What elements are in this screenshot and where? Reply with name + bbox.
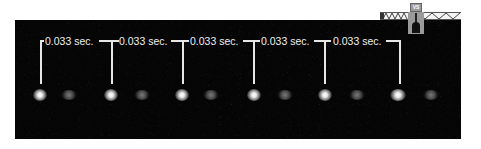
bright-spot bbox=[390, 89, 406, 101]
dim-spot bbox=[61, 90, 77, 100]
time-marker-line bbox=[111, 40, 113, 84]
bright-spot bbox=[247, 89, 261, 101]
interval-bracket bbox=[99, 40, 119, 42]
bright-spot bbox=[318, 89, 332, 101]
dim-spot bbox=[277, 90, 293, 100]
interval-label: 0.033 sec. bbox=[190, 35, 238, 47]
time-marker-line bbox=[40, 40, 42, 84]
interval-bracket bbox=[243, 40, 260, 42]
bright-spot bbox=[33, 89, 47, 101]
bright-spot bbox=[104, 89, 118, 101]
interval-bracket bbox=[171, 40, 189, 42]
detector-body bbox=[412, 22, 420, 33]
vs-label-box: VS bbox=[410, 3, 422, 12]
interval-bracket bbox=[40, 40, 44, 42]
time-marker-line bbox=[399, 40, 401, 84]
fluorescence-image-panel: 0.033 sec. 0.033 sec. 0.033 sec. 0.033 s… bbox=[15, 20, 461, 139]
interval-bracket bbox=[314, 40, 331, 42]
dim-spot bbox=[423, 90, 439, 100]
interval-label: 0.033 sec. bbox=[45, 35, 93, 47]
time-marker-line bbox=[182, 40, 184, 84]
bright-spot bbox=[175, 89, 189, 101]
interval-bracket bbox=[386, 40, 400, 42]
interval-label: 0.033 sec. bbox=[119, 35, 167, 47]
dim-spot bbox=[349, 90, 365, 100]
interval-label: 0.033 sec. bbox=[261, 35, 309, 47]
dim-spot bbox=[134, 90, 150, 100]
dim-spot bbox=[203, 90, 219, 100]
time-marker-line bbox=[324, 40, 326, 84]
interval-label: 0.033 sec. bbox=[333, 35, 381, 47]
time-marker-line bbox=[253, 40, 255, 84]
